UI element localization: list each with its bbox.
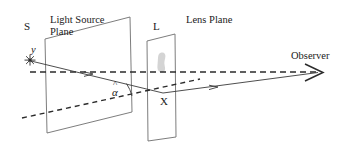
- emergent-ray: [163, 73, 318, 94]
- source-plane-name-label: Light SourcePlane: [50, 14, 105, 38]
- lens-plane-marker-label: L: [153, 20, 160, 32]
- incident-ray: [31, 61, 163, 93]
- lens-plane-name-label: Lens Plane: [186, 14, 232, 26]
- source-plane-name-line2: Plane: [50, 26, 73, 37]
- light-source-star-burst-icon: [25, 55, 35, 65]
- lens-plane-quad: [147, 34, 176, 141]
- source-height-label: y: [31, 44, 36, 56]
- lens-blob-icon: [157, 52, 165, 72]
- optics-diagram-figure: S Light SourcePlane L Lens Plane y X Obs…: [0, 0, 343, 147]
- angle-alpha-label: ^α: [108, 82, 122, 98]
- source-plane-marker-label: S: [24, 20, 30, 32]
- lens-point-label: X: [160, 95, 168, 107]
- angle-alpha-symbol: α: [108, 87, 122, 98]
- observer-label: Observer: [291, 50, 329, 62]
- source-plane-name-line1: Light Source: [50, 14, 105, 25]
